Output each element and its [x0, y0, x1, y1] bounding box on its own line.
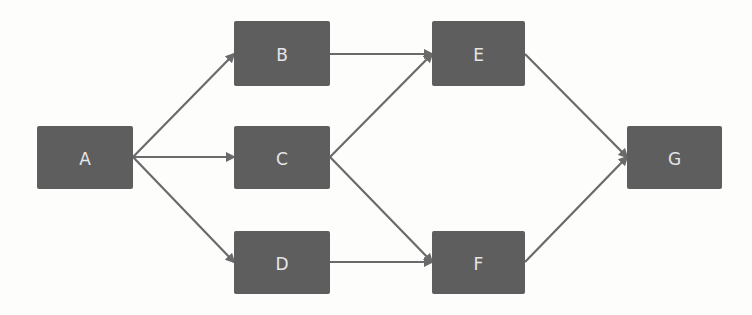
node-e: E: [432, 21, 525, 86]
node-label: E: [473, 45, 484, 65]
edge-a-to-b: [133, 54, 234, 157]
edge-c-to-e: [330, 54, 432, 157]
node-c: C: [234, 126, 330, 189]
node-b: B: [234, 21, 330, 86]
edge-e-to-g: [525, 54, 627, 157]
edges-layer: [133, 54, 627, 262]
edge-c-to-f: [330, 157, 432, 262]
node-d: D: [234, 231, 330, 294]
node-label: C: [276, 149, 288, 169]
node-label: A: [79, 149, 91, 169]
node-g: G: [627, 126, 722, 189]
node-f: F: [432, 231, 525, 294]
edge-f-to-g: [525, 157, 627, 262]
node-label: F: [474, 254, 484, 274]
edge-a-to-d: [133, 157, 234, 262]
node-label: B: [276, 45, 288, 65]
node-a: A: [37, 126, 133, 189]
node-label: G: [668, 149, 681, 169]
flow-diagram: ABCDEFG: [0, 0, 752, 315]
node-label: D: [275, 254, 288, 274]
